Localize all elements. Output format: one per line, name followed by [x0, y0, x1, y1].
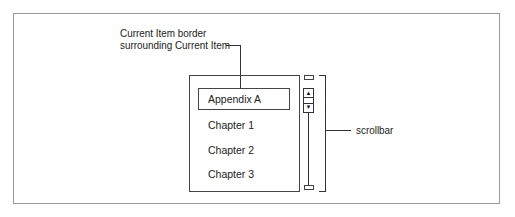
list-item[interactable]: Chapter 3: [208, 168, 254, 180]
callout-leader-horizontal: [226, 45, 240, 46]
list-item[interactable]: Appendix A: [208, 93, 261, 105]
current-item-callout: Current Item border surrounding Current …: [120, 27, 230, 51]
elevator-divider: [304, 97, 313, 98]
scrollbar-top-cap[interactable]: [304, 75, 314, 80]
scrollbar-leader: [326, 130, 351, 131]
scrollbar-bracket-side: [325, 75, 326, 192]
list-item[interactable]: Chapter 2: [208, 144, 254, 156]
scrollbar-label: scrollbar: [356, 124, 393, 136]
scrollbar-elevator[interactable]: ▲ ▼: [303, 88, 314, 113]
scrollbar-cable[interactable]: [308, 113, 309, 185]
scrollbar-bracket-bottom: [319, 191, 325, 192]
list-item[interactable]: Chapter 1: [208, 119, 254, 131]
callout-line-2: surrounding Current Item: [120, 39, 230, 51]
scrollbar-bottom-cap[interactable]: [304, 185, 314, 190]
scroll-up-arrow-icon[interactable]: ▲: [305, 90, 312, 97]
scroll-down-arrow-icon[interactable]: ▼: [305, 104, 312, 111]
callout-line-1: Current Item border: [120, 27, 230, 39]
